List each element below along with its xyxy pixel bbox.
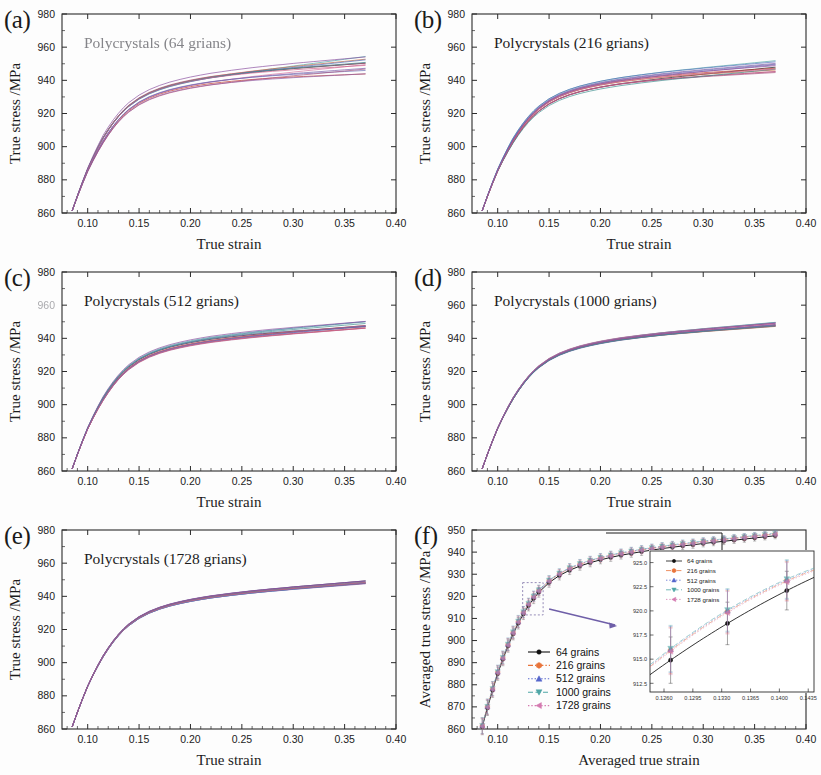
x-tick-label: 0.10 (487, 217, 508, 229)
stress-strain-curve (482, 73, 775, 211)
stress-strain-curve (482, 323, 775, 469)
plot-area-b: 0.100.150.200.250.300.350.40860880900920… (410, 0, 820, 258)
x-tick-label: 0.10 (487, 733, 508, 745)
legend-label: 216 grains (556, 659, 605, 671)
y-tick-label: 920 (447, 590, 465, 602)
stress-strain-curve (72, 57, 365, 211)
x-tick-label: 0.35 (744, 475, 765, 487)
stress-strain-curve (482, 70, 775, 210)
x-tick-label: 0.10 (77, 475, 98, 487)
inset-x-tick-label: 0.1260 (655, 695, 672, 701)
x-tick-label: 0.25 (232, 475, 253, 487)
y-tick-label: 900 (447, 398, 465, 410)
stress-strain-curve (482, 323, 775, 468)
y-axis-title: True stress /MPa (7, 579, 23, 680)
curve-bundle-b (482, 61, 775, 211)
x-tick-label: 0.35 (334, 217, 355, 229)
stress-strain-curve (72, 74, 365, 211)
x-tick-label: 0.20 (590, 475, 611, 487)
y-tick-label: 960 (447, 299, 465, 311)
y-tick-label: 880 (447, 431, 465, 443)
stress-strain-curve (482, 324, 775, 468)
stress-strain-curve (482, 69, 775, 211)
stress-strain-curve (72, 326, 365, 469)
inset-y-tick-label: 915.0 (633, 656, 647, 662)
x-axis-title: True strain (197, 752, 262, 768)
stress-strain-curve (72, 327, 365, 469)
x-tick-label: 0.20 (590, 733, 611, 745)
y-tick-label: 880 (37, 431, 55, 443)
y-tick-label: 950 (447, 524, 465, 536)
y-axis-title: True stress /MPa (7, 321, 23, 422)
panel-b: (b)0.100.150.200.250.300.350.40860880900… (410, 0, 820, 258)
x-axis-title: True strain (607, 494, 672, 510)
x-axis-title: Averaged true strain (578, 752, 700, 768)
x-tick-label: 0.15 (129, 475, 150, 487)
inset-legend-label: 64 grains (687, 557, 712, 564)
inset-y-tick-label: 912.5 (633, 681, 647, 687)
x-tick-label: 0.30 (693, 475, 714, 487)
plot-area-a: 0.100.150.200.250.300.350.40860880900920… (0, 0, 410, 258)
inset-x-tick-label: 0.1330 (713, 695, 730, 701)
stress-strain-curve (72, 63, 365, 210)
x-tick-label: 0.25 (642, 733, 663, 745)
stress-strain-curve (72, 584, 365, 727)
panel-a: (a)0.100.150.200.250.300.350.40860880900… (0, 0, 410, 258)
stress-strain-curve (72, 326, 365, 469)
stress-strain-curve (72, 62, 365, 210)
stress-strain-curve (72, 68, 365, 210)
y-tick-label: 980 (447, 8, 465, 20)
stress-strain-curve (482, 326, 775, 469)
x-tick-label: 0.40 (796, 733, 817, 745)
y-tick-label: 920 (37, 365, 55, 377)
y-tick-label: 960 (37, 299, 55, 311)
panel-title-d: Polycrystals (1000 grians) (494, 292, 657, 310)
y-tick-label: 920 (37, 107, 55, 119)
stress-strain-curve (72, 322, 365, 469)
inset-x-tick-label: 0.1365 (742, 695, 759, 701)
x-axis-title: True strain (197, 236, 262, 252)
stress-strain-curve (482, 65, 775, 211)
stress-strain-curve (482, 326, 775, 468)
stress-strain-curve (482, 326, 775, 468)
x-tick-label: 0.40 (386, 217, 407, 229)
x-tick-label: 0.25 (232, 217, 253, 229)
x-tick-label: 0.30 (693, 217, 714, 229)
stress-strain-curve (72, 69, 365, 210)
legend-marker-triangle-up (536, 676, 542, 681)
stress-strain-curve (482, 325, 775, 469)
stress-strain-curve (482, 66, 775, 211)
panel-title-e: Polycrystals (1728 grians) (84, 550, 247, 568)
stress-strain-curve (482, 69, 775, 210)
stress-strain-curve (482, 67, 775, 210)
stress-strain-curve (72, 328, 365, 469)
y-tick-label: 900 (37, 656, 55, 668)
stress-strain-curve (482, 326, 775, 468)
legend-label: 64 grains (556, 646, 599, 658)
x-axis-title: True strain (197, 494, 262, 510)
y-tick-label: 880 (447, 173, 465, 185)
stress-strain-curve (72, 583, 365, 726)
y-tick-label: 860 (447, 207, 465, 219)
stress-strain-curve (72, 57, 365, 211)
legend-label: 512 grains (556, 672, 605, 684)
x-tick-label: 0.25 (642, 475, 663, 487)
stress-strain-curve (482, 325, 775, 468)
panel-f: (f)0.100.150.200.250.300.350.40860870880… (410, 516, 820, 774)
x-tick-label: 0.25 (642, 217, 663, 229)
y-tick-label: 880 (447, 678, 465, 690)
y-axis-title: Averaged true stress /MPa (417, 550, 433, 708)
stress-strain-curve (72, 582, 365, 726)
legend-panel-f: 64 grains216 grains512 grains1000 grains… (528, 646, 611, 712)
y-tick-label: 900 (37, 140, 55, 152)
legend-marker-circle (537, 650, 542, 655)
y-axis-title: True stress /MPa (7, 63, 23, 164)
y-tick-label: 960 (447, 41, 465, 53)
x-tick-label: 0.30 (283, 475, 304, 487)
y-tick-label: 900 (447, 140, 465, 152)
y-tick-label: 980 (447, 266, 465, 278)
panel-c: (c)0.100.150.200.250.300.350.40860880900… (0, 258, 410, 516)
x-tick-label: 0.15 (129, 217, 150, 229)
y-tick-label: 880 (37, 173, 55, 185)
x-tick-label: 0.15 (129, 733, 150, 745)
